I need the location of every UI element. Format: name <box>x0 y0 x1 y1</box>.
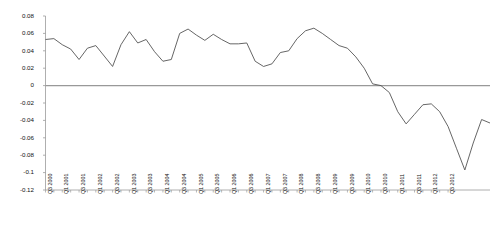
y-axis-tick-label: 0.04 <box>0 48 34 54</box>
x-axis-tick-label: Q3 2008 <box>316 174 321 194</box>
chart-plot-area <box>0 0 498 231</box>
y-axis-tick-label: -0.04 <box>0 117 34 123</box>
x-axis-tick-label: Q1 2010 <box>366 174 371 194</box>
x-axis-tick-label: Q3 2012 <box>450 174 455 194</box>
x-axis-tick-label: Q1 2004 <box>165 174 170 194</box>
x-axis-tick-label: Q1 2002 <box>98 174 103 194</box>
axes <box>46 16 491 190</box>
y-axis-tick-label: 0.08 <box>0 13 34 19</box>
x-axis-tick-label: Q3 2006 <box>249 174 254 194</box>
x-axis-tick-label: Q3 2005 <box>215 174 220 194</box>
x-axis-tick-label: Q1 2011 <box>400 174 405 194</box>
x-axis-tick-label: Q1 2005 <box>199 174 204 194</box>
x-axis-tick-label: Q3 2000 <box>48 174 53 194</box>
x-axis-tick-label: Q3 2009 <box>350 174 355 194</box>
x-axis-tick-label: Q1 2003 <box>132 174 137 194</box>
y-axis-tick-label: -0.12 <box>0 187 34 193</box>
data-series-line <box>46 28 491 170</box>
x-axis-tick-label: Q3 2007 <box>283 174 288 194</box>
x-axis-tick-label: Q1 2009 <box>333 174 338 194</box>
x-axis-tick-label: Q3 2002 <box>115 174 120 194</box>
y-axis-tick-label: -0.1 <box>0 169 34 175</box>
x-axis-tick-label: Q1 2001 <box>64 174 69 194</box>
y-axis-tick-label: -0.06 <box>0 135 34 141</box>
y-axis-tick-label: -0.08 <box>0 152 34 158</box>
x-axis-tick-label: Q1 2007 <box>266 174 271 194</box>
x-axis-tick-label: Q1 2012 <box>433 174 438 194</box>
x-axis-tick-label: Q1 2006 <box>232 174 237 194</box>
x-axis-tick-label: Q1 2008 <box>299 174 304 194</box>
x-axis-tick-label: Q3 2003 <box>148 174 153 194</box>
x-axis-tick-label: Q3 2001 <box>81 174 86 194</box>
y-axis-tick-label: 0 <box>0 82 34 88</box>
y-axis-tick-label: 0.06 <box>0 30 34 36</box>
x-axis-tick-label: Q3 2011 <box>417 174 422 194</box>
line-chart: 0.080.060.040.020-0.02-0.04-0.06-0.08-0.… <box>0 0 498 231</box>
x-axis-tick-label: Q3 2010 <box>383 174 388 194</box>
y-axis-tick-label: -0.02 <box>0 100 34 106</box>
x-axis-tick-label: Q3 2004 <box>182 174 187 194</box>
y-axis-tick-label: 0.02 <box>0 65 34 71</box>
